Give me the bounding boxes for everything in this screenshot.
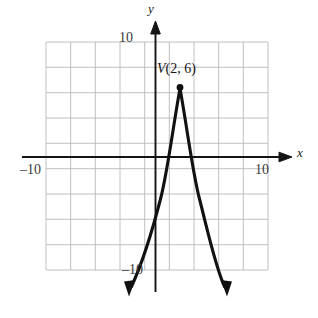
y-axis-tick-label-10: 10 (119, 31, 133, 45)
vertex-annotation-label: V(2, 6) (157, 62, 196, 76)
y-axis-tick-label-minus10: –10 (122, 263, 143, 277)
x-axis-tick-label-minus10: –10 (20, 163, 41, 177)
graph-figure: y x 10 –10 10 –10 V(2, 6) (0, 0, 318, 318)
x-axis-label: x (297, 146, 303, 159)
parabola-right-arrowhead (221, 280, 232, 297)
y-axis-arrowhead (151, 21, 161, 34)
y-axis-label: y (148, 2, 154, 15)
x-axis-arrowhead (279, 152, 292, 162)
vertex-annotation-coords: (2, 6) (166, 61, 196, 76)
vertex-point-marker (177, 84, 184, 91)
x-axis-tick-label-10: 10 (255, 163, 269, 177)
grid-lines (46, 42, 268, 270)
coordinate-plane-svg (0, 0, 318, 318)
parabola-left-arrowhead (124, 280, 135, 297)
vertex-annotation-name: V (157, 61, 166, 76)
